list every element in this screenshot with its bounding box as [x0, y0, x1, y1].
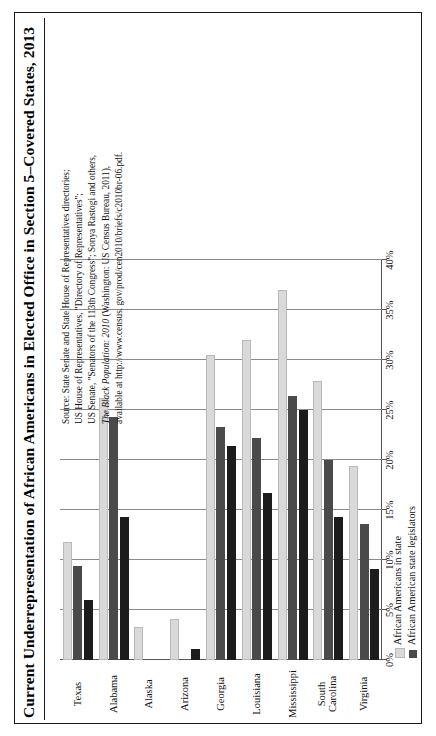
bar	[170, 619, 179, 660]
bar	[324, 460, 333, 660]
chart-title: Current Underrepresentation of African A…	[20, 18, 38, 718]
legend-item: African Americans in state	[392, 238, 405, 658]
bar	[73, 566, 82, 660]
legend-swatch	[409, 650, 417, 658]
bar-group	[167, 260, 203, 660]
bar	[278, 290, 287, 660]
bar	[206, 355, 215, 660]
category-label: Alabama	[108, 664, 119, 724]
category-label: Virginia	[358, 664, 369, 724]
source-note: Source: State Senate and State House of …	[60, 24, 126, 424]
rotated-figure-canvas: Current Underrepresentation of African A…	[14, 12, 422, 724]
category-label: Georgia	[215, 664, 226, 724]
title-divider	[44, 18, 45, 720]
chart-legend: African Americans in stateAfrican Americ…	[392, 238, 422, 658]
category-label: Arizona	[179, 664, 190, 724]
bar	[216, 427, 225, 660]
bar	[360, 524, 369, 660]
bar	[334, 517, 343, 660]
bar-group	[310, 260, 346, 660]
bar	[63, 542, 72, 660]
bar	[109, 417, 118, 660]
category-label: Mississippi	[287, 664, 298, 724]
source-line-3: US Senate, "Senators of the 113th Congre…	[86, 24, 99, 424]
source-line-5: available at http://www.census. gov/prod…	[113, 24, 126, 424]
source-line-4: The Black Population: 2010 (Washington: …	[100, 24, 113, 424]
bar-group	[275, 260, 311, 660]
bar	[134, 627, 143, 660]
bar	[84, 600, 93, 660]
source-line-1: Source: State Senate and State House of …	[60, 24, 73, 424]
category-label: Alaska	[143, 664, 154, 724]
bar	[252, 438, 261, 660]
bar	[370, 569, 379, 660]
legend-label: African American state legislators	[406, 506, 417, 645]
bar	[288, 396, 297, 660]
source-italic-title: The Black Population: 2010	[101, 319, 111, 424]
rotated-figure-wrapper: Current Underrepresentation of African A…	[14, 12, 422, 724]
category-label: Texas	[72, 664, 83, 724]
legend-item: African American state legislators	[406, 238, 419, 658]
legend-swatch	[395, 648, 405, 658]
bar	[299, 410, 308, 660]
bar	[263, 493, 272, 660]
bar	[120, 517, 129, 660]
source-line-2: US House of Representatives, "Directory …	[73, 24, 86, 424]
legend-label: African American national legislators	[420, 492, 422, 645]
bar-group	[132, 260, 168, 660]
figure-page: Current Underrepresentation of African A…	[0, 0, 436, 736]
category-label: SouthCarolina	[316, 664, 338, 724]
legend-label: African Americans in state	[392, 536, 403, 645]
category-label: Louisiana	[251, 664, 262, 724]
source-line-4-rest: (Washington: US Census Bureau, 2011),	[101, 166, 111, 319]
bar	[99, 398, 108, 660]
bar	[349, 466, 358, 660]
bar-group	[239, 260, 275, 660]
bar	[227, 446, 236, 660]
bar-group	[346, 260, 382, 660]
legend-item: African American national legislators	[420, 238, 422, 658]
bar	[242, 340, 251, 660]
bar	[191, 649, 200, 660]
bar-group	[203, 260, 239, 660]
bar	[313, 381, 322, 660]
